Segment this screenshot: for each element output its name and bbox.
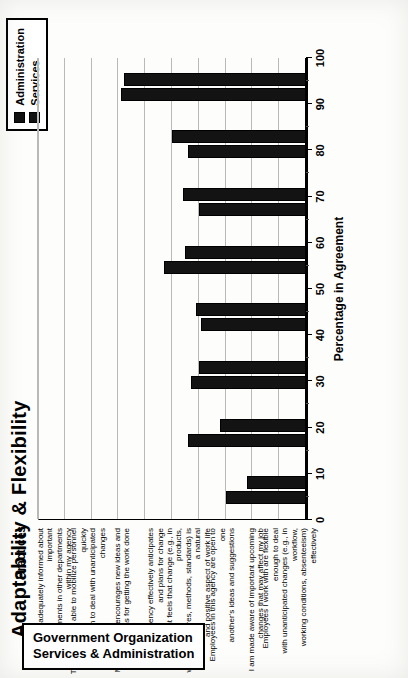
axis-tick	[306, 242, 312, 243]
value-axis-title: Percentage in Agreement	[332, 58, 346, 520]
axis-tick-minor	[306, 496, 309, 497]
category-label: Employees I work with are flexible enoug…	[261, 528, 318, 676]
bar	[185, 246, 306, 259]
bar-group	[39, 116, 306, 174]
axis-tick-label: 90	[314, 98, 326, 110]
axis-tick	[306, 519, 312, 520]
axis-tick	[306, 473, 312, 474]
bar	[226, 491, 306, 504]
chart-figure: Adaptability & Flexibility Administratio…	[0, 0, 408, 678]
bar	[196, 303, 306, 316]
axis-tick-minor	[306, 173, 309, 174]
bar	[121, 88, 306, 101]
caption-line-1: Government Organization	[33, 630, 194, 646]
gridline	[37, 58, 38, 519]
axis-tick	[306, 103, 312, 104]
bar-group	[39, 461, 306, 519]
bar	[201, 318, 306, 331]
axis-tick-label: 20	[314, 421, 326, 433]
legend-item-administration: Administration	[12, 28, 27, 123]
axis-tick-label: 10	[314, 468, 326, 480]
axis-tick	[306, 149, 312, 150]
axis-tick-label: 60	[314, 237, 326, 249]
bar	[188, 145, 306, 158]
axis-tick-label: 100	[314, 49, 326, 67]
bar-group	[39, 173, 306, 231]
legend-swatch-icon	[14, 112, 25, 123]
bar	[247, 476, 306, 489]
axis-tick-minor	[306, 450, 309, 451]
figure-rotator: Adaptability & Flexibility Administratio…	[0, 0, 408, 678]
bar-groups	[39, 58, 306, 519]
axis-tick-label: 0	[314, 517, 326, 523]
axis-tick-minor	[306, 357, 309, 358]
caption-line-2: Services & Administration	[33, 646, 194, 662]
bar	[172, 130, 306, 143]
axis-tick	[306, 288, 312, 289]
bar	[199, 361, 306, 374]
bar-group	[39, 58, 306, 116]
axis-tick	[306, 334, 312, 335]
axis-tick-minor	[306, 126, 309, 127]
axis-tick-label: 30	[314, 375, 326, 387]
axis-tick	[306, 380, 312, 381]
bar	[220, 419, 306, 432]
bar	[124, 73, 306, 86]
axis-tick-label: 70	[314, 190, 326, 202]
bar	[191, 376, 306, 389]
axis-tick-label: 40	[314, 329, 326, 341]
axis-tick	[306, 196, 312, 197]
bar	[188, 434, 306, 447]
plot-area	[38, 58, 306, 520]
bar-group	[39, 289, 306, 347]
axis-tick	[306, 427, 312, 428]
axis-tick-minor	[306, 80, 309, 81]
scanned-page: Adaptability & Flexibility Administratio…	[0, 0, 408, 678]
bar-group	[39, 346, 306, 404]
axis-tick	[306, 57, 312, 58]
legend-label: Administration	[14, 28, 26, 106]
axis-tick-minor	[306, 265, 309, 266]
bar	[164, 261, 306, 274]
axis-tick-minor	[306, 311, 309, 312]
axis-tick-minor	[306, 404, 309, 405]
bar-group	[39, 404, 306, 462]
bar	[199, 203, 306, 216]
axis-tick-label: 50	[314, 283, 326, 295]
axis-tick-minor	[306, 219, 309, 220]
bar-group	[39, 231, 306, 289]
figure-caption-box: Government Organization Services & Admin…	[22, 623, 205, 670]
bar	[183, 188, 306, 201]
category-label: Employees in this agency are open to one…	[208, 528, 237, 676]
axis-tick-label: 80	[314, 144, 326, 156]
